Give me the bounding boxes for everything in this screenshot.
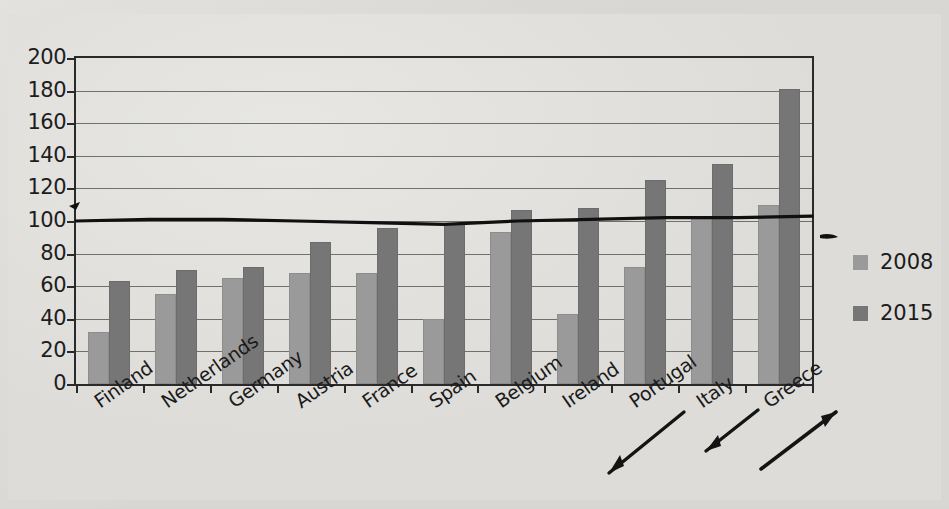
y-axis-tick-label: 20: [8, 338, 66, 362]
bar-2015-spain[interactable]: [444, 223, 465, 384]
x-tick-mark: [210, 384, 212, 393]
bar-2008-portugal[interactable]: [624, 267, 645, 384]
x-tick-mark: [745, 384, 747, 393]
y-axis-tick-label: 160: [8, 110, 66, 134]
bar-group: [344, 58, 411, 384]
bar-2015-greece[interactable]: [779, 89, 800, 384]
legend-label: 2015: [880, 301, 933, 325]
y-tick-mark: [67, 91, 76, 93]
bar-2008-france[interactable]: [356, 273, 377, 384]
y-tick-mark: [67, 254, 76, 256]
y-tick-mark: [67, 58, 76, 60]
x-tick-mark: [344, 384, 346, 393]
slide-canvas: 020406080100120140160180200 FinlandNethe…: [8, 14, 941, 500]
y-tick-mark: [67, 188, 76, 190]
y-tick-mark: [67, 221, 76, 223]
y-tick-mark: [67, 351, 76, 353]
y-tick-mark: [67, 286, 76, 288]
x-tick-mark: [678, 384, 680, 393]
arrow-reference-line-head-right: [820, 234, 838, 239]
chart-legend: 20082015: [853, 250, 933, 352]
bar-group: [277, 58, 344, 384]
arrow-greece: [761, 412, 836, 469]
bar-group: [411, 58, 478, 384]
bar-2015-ireland[interactable]: [578, 208, 599, 384]
bar-2015-portugal[interactable]: [645, 180, 666, 384]
legend-swatch: [853, 255, 868, 270]
x-tick-mark: [544, 384, 546, 393]
bar-group: [143, 58, 210, 384]
y-tick-mark: [67, 384, 76, 386]
legend-item-2015[interactable]: 2015: [853, 301, 933, 325]
arrow-italy: [706, 410, 758, 451]
y-axis-tick-label: 0: [8, 371, 66, 395]
bar-2015-belgium[interactable]: [511, 210, 532, 384]
y-axis-tick-label: 80: [8, 241, 66, 265]
x-tick-mark: [477, 384, 479, 393]
bar-2015-austria[interactable]: [310, 242, 331, 384]
legend-swatch: [853, 306, 868, 321]
bar-group: [611, 58, 678, 384]
x-tick-mark: [611, 384, 613, 393]
bar-group: [745, 58, 812, 384]
legend-item-2008[interactable]: 2008: [853, 250, 933, 274]
y-tick-mark: [67, 123, 76, 125]
legend-label: 2008: [880, 250, 933, 274]
bar-2008-spain[interactable]: [423, 319, 444, 384]
bar-group: [678, 58, 745, 384]
y-axis-tick-label: 200: [8, 45, 66, 69]
bar-group: [76, 58, 143, 384]
y-axis-tick-label: 120: [8, 175, 66, 199]
y-axis-tick-label: 140: [8, 143, 66, 167]
y-axis-tick-label: 40: [8, 306, 66, 330]
y-axis-tick-label: 60: [8, 273, 66, 297]
bar-2008-belgium[interactable]: [490, 232, 511, 384]
bar-group: [544, 58, 611, 384]
bar-2008-finland[interactable]: [88, 332, 109, 384]
y-tick-mark: [67, 156, 76, 158]
y-axis-tick-label: 180: [8, 78, 66, 102]
x-tick-mark: [277, 384, 279, 393]
plot-area: [74, 56, 814, 386]
x-tick-mark: [143, 384, 145, 393]
x-tick-mark: [76, 384, 78, 393]
bar-2008-greece[interactable]: [758, 205, 779, 384]
bar-2008-netherlands[interactable]: [155, 294, 176, 384]
bar-2015-italy[interactable]: [712, 164, 733, 384]
x-tick-mark: [812, 384, 814, 393]
x-tick-mark: [411, 384, 413, 393]
y-axis-tick-label: 100: [8, 208, 66, 232]
bar-2015-france[interactable]: [377, 228, 398, 384]
bar-series-container: [76, 58, 812, 384]
arrow-portugal: [609, 412, 684, 473]
bar-group: [477, 58, 544, 384]
bar-2008-ireland[interactable]: [557, 314, 578, 384]
page-background: 020406080100120140160180200 FinlandNethe…: [0, 0, 949, 509]
y-tick-mark: [67, 319, 76, 321]
